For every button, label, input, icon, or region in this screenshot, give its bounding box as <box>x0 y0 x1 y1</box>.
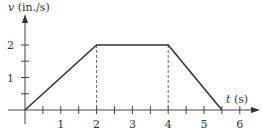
x-tick-label: 2 <box>93 118 100 131</box>
x-tick-label: 6 <box>236 118 243 131</box>
y-axis-unit: (in./s) <box>14 1 50 14</box>
velocity-time-chart: 1 2 3 4 5 6 1 2 v (in./s) t (s) <box>0 0 263 136</box>
y-axis-label: v (in./s) <box>8 1 50 14</box>
x-tick-label: 3 <box>129 118 136 131</box>
y-tick-label: 2 <box>7 39 14 52</box>
x-tick-label: 1 <box>57 118 64 131</box>
x-tick-label: 5 <box>201 118 208 131</box>
x-tick-label: 4 <box>165 118 172 131</box>
x-axis-label: t (s) <box>226 93 248 106</box>
y-axis-arrow-icon <box>22 14 28 23</box>
velocity-line <box>25 45 222 110</box>
y-tick-label: 1 <box>7 72 14 85</box>
x-axis-arrow-icon <box>251 107 260 113</box>
x-axis-unit: (s) <box>230 93 248 106</box>
